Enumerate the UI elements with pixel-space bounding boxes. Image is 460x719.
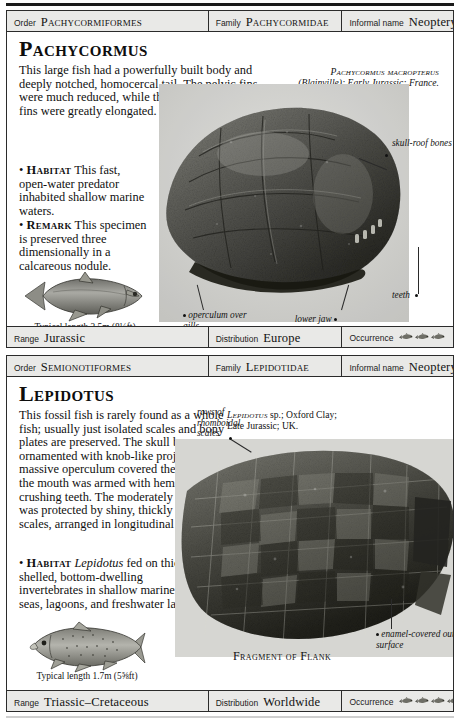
habitat-block: • Habitat This fast, open-water predator…	[19, 164, 147, 218]
range-label: Range	[14, 328, 39, 347]
callout-operculum-over-gills: operculum over gills	[183, 310, 255, 326]
remark-block: • Remark This specimen is preserved thre…	[19, 219, 147, 273]
entry-footer-bar: Range Triassic–Cretaceous Distribution W…	[6, 690, 454, 712]
informal-name-field: Informal name Neopterygian	[341, 356, 453, 376]
occurrence-fish-icons	[398, 332, 445, 341]
callout-enamel-covered-outer-surface: enamel-covered outer surface	[376, 629, 454, 650]
entry-lepidotus: Order Semionotiformes Family Lepidotidae…	[6, 355, 454, 714]
enamel-leader	[391, 599, 392, 629]
distribution-value: Worldwide	[263, 691, 320, 711]
distribution-label: Distribution	[216, 692, 259, 711]
callout-skull-roof-bones-text: skull-roof bones	[392, 138, 452, 148]
family-label: Family	[216, 12, 241, 31]
informal-name-label: Informal name	[349, 357, 403, 376]
informal-name-field: Informal name Neopterygian	[341, 11, 453, 31]
occurrence-fish-icon	[430, 332, 445, 341]
occurrence-label: Occurrence	[349, 691, 393, 711]
habitat-label: Habitat	[26, 163, 71, 177]
occurrence-fish-icon	[414, 696, 429, 705]
callout-enamel-text: enamel-covered outer surface	[376, 629, 454, 650]
family-field: Family Pachycormidae	[208, 11, 342, 31]
range-field: Range Jurassic	[7, 327, 208, 347]
page-title: Lepidotus	[19, 381, 114, 407]
range-value: Triassic–Cretaceous	[44, 691, 149, 711]
distribution-field: Distribution Europe	[208, 327, 342, 347]
callout-lower-jaw-text: lower jaw	[295, 314, 332, 324]
distribution-field: Distribution Worldwide	[208, 691, 342, 711]
teeth-dot	[415, 294, 418, 297]
range-value: Jurassic	[44, 327, 85, 347]
page-title: Pachycormus	[19, 36, 148, 62]
reconstruction-illustration-pachycormus	[23, 270, 145, 326]
informal-name-value: Neopterygian	[409, 356, 453, 376]
order-label: Order	[14, 12, 36, 31]
order-label: Order	[14, 357, 36, 376]
family-value: Pachycormidae	[246, 11, 329, 31]
order-field: Order Pachycormiformes	[7, 11, 208, 31]
callout-teeth-text: teeth	[392, 290, 410, 300]
lower-jaw-dot	[334, 318, 337, 321]
distribution-label: Distribution	[216, 328, 259, 347]
fossil-fish-reference-page: Order Pachycormiformes Family Pachycormi…	[0, 0, 460, 719]
top-rule	[6, 3, 454, 6]
entry-body: Pachycormus This large fish had a powerf…	[6, 32, 454, 326]
callout-lower-jaw: lower jaw	[279, 314, 337, 325]
figure-caption: Fragment of Flank	[233, 649, 331, 664]
occurrence-fish-icon	[398, 696, 413, 705]
teeth-leader	[418, 247, 419, 294]
entry-header-bar: Order Semionotiformes Family Lepidotidae…	[6, 355, 454, 377]
operculum-dot	[183, 314, 186, 317]
entry-header-bar: Order Pachycormiformes Family Pachycormi…	[6, 10, 454, 32]
reconstruction-illustration-lepidotus	[25, 621, 149, 677]
occurrence-label: Occurrence	[349, 327, 393, 347]
occurrence-fish-icon	[430, 696, 445, 705]
order-field: Order Semionotiformes	[7, 356, 208, 376]
occurrence-field: Occurrence	[341, 327, 453, 347]
habitat-label: Habitat	[26, 556, 71, 570]
callout-skull-roof-bones: skull-roof bones	[392, 138, 452, 149]
fossil-scale-block-photograph	[175, 439, 454, 657]
range-label: Range	[14, 692, 39, 711]
enamel-dot	[376, 633, 379, 636]
occurrence-fish-icon	[398, 332, 413, 341]
callout-rows-text: rows of rhomboidal scales	[197, 407, 240, 438]
entry-pachycormus: Order Pachycormiformes Family Pachycormi…	[6, 10, 454, 350]
callout-teeth: teeth	[377, 290, 410, 301]
family-label: Family	[216, 357, 241, 376]
order-value: Pachycormiformes	[41, 11, 142, 31]
informal-name-value: Neopterygian	[409, 11, 453, 31]
bottom-rule	[6, 716, 454, 718]
callout-operculum-text: operculum over gills	[183, 310, 247, 326]
family-value: Lepidotidae	[246, 356, 309, 376]
habitat-block: • Habitat Lepidotus fed on thick-shelled…	[19, 557, 199, 611]
reconstruction-caption: Typical length 1.7m (5⅝ft)	[13, 671, 161, 681]
entry-footer-bar: Range Jurassic Distribution Europe Occur…	[6, 326, 454, 348]
habitat-genus: Lepidotus	[74, 556, 123, 570]
distribution-value: Europe	[263, 327, 300, 347]
occurrence-fish-icon	[446, 696, 453, 705]
occurrence-fish-icon	[414, 332, 429, 341]
order-value: Semionotiformes	[41, 356, 131, 376]
range-field: Range Triassic–Cretaceous	[7, 691, 208, 711]
family-field: Family Lepidotidae	[208, 356, 342, 376]
callout-rows-of-rhomboidal-scales: rows of rhomboidal scales	[197, 407, 251, 439]
skull-roof-bones-dot	[385, 154, 388, 157]
remark-label: Remark	[26, 218, 71, 232]
specimen-genus: Pachycormus macropterus	[330, 66, 439, 77]
occurrence-fish-icons	[398, 696, 453, 705]
informal-name-label: Informal name	[349, 12, 403, 31]
occurrence-field: Occurrence	[341, 691, 453, 711]
entry-body: Lepidotus This fossil fish is rarely fou…	[6, 377, 454, 690]
